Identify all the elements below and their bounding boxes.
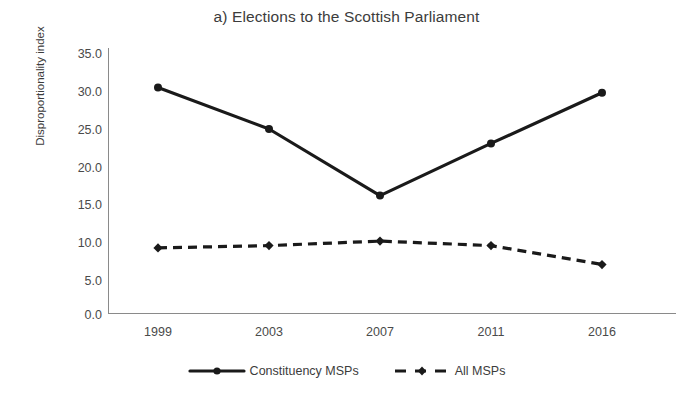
y-tick-label: 35.0 xyxy=(58,48,102,61)
x-tick-label: 2007 xyxy=(345,325,415,339)
x-tick-label: 1999 xyxy=(123,325,193,339)
y-tick-label: 25.0 xyxy=(58,124,102,137)
data-point xyxy=(486,241,495,250)
chart-figure: a) Elections to the Scottish Parliament … xyxy=(0,0,693,416)
solid-line-circle-marker-icon xyxy=(188,364,246,378)
data-point xyxy=(375,236,384,245)
y-axis-title: Disproportionality index xyxy=(34,0,46,186)
legend-entry-constituency-msps: Constituency MSPs xyxy=(188,364,359,378)
x-tick-label: 2003 xyxy=(234,325,304,339)
x-tick-label: 2016 xyxy=(567,325,637,339)
legend-label: All MSPs xyxy=(455,364,506,378)
y-tick-label: 10.0 xyxy=(58,237,102,250)
series-plot xyxy=(108,48,675,313)
data-point xyxy=(154,83,162,91)
series-line-constituency-msps xyxy=(158,87,602,195)
data-point xyxy=(598,89,606,97)
chart-legend: Constituency MSPs All MSPs xyxy=(0,364,693,378)
dashed-line-diamond-marker-icon xyxy=(393,364,451,378)
data-point xyxy=(597,260,606,269)
y-tick-label: 0.0 xyxy=(58,309,102,322)
x-tick-label: 2011 xyxy=(456,325,526,339)
y-tick-label: 20.0 xyxy=(58,162,102,175)
data-point xyxy=(376,192,384,200)
y-axis-tick-labels: 35.0 30.0 25.0 20.0 15.0 10.0 5.0 0.0 xyxy=(52,0,102,416)
x-axis-line xyxy=(108,313,676,314)
data-point xyxy=(487,139,495,147)
data-point xyxy=(264,241,273,250)
y-tick-label: 30.0 xyxy=(58,86,102,99)
chart-title: a) Elections to the Scottish Parliament xyxy=(0,8,693,26)
y-tick-label: 5.0 xyxy=(58,275,102,288)
legend-entry-all-msps: All MSPs xyxy=(393,364,506,378)
legend-label: Constituency MSPs xyxy=(250,364,359,378)
data-point xyxy=(153,243,162,252)
plot-area xyxy=(108,48,675,313)
y-tick-label: 15.0 xyxy=(58,199,102,212)
series-markers-constituency-msps xyxy=(154,83,606,199)
data-point xyxy=(265,125,273,133)
